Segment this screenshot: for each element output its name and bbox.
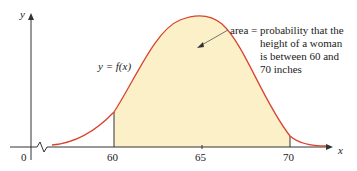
origin-label: 0	[21, 151, 27, 164]
annotation-line-2: height of a woman	[260, 37, 342, 50]
tick-label-70: 70	[283, 151, 294, 164]
curve-label: y = f(x)	[98, 60, 131, 73]
y-axis-label: y	[20, 8, 25, 21]
x-axis-arrow-icon	[326, 144, 333, 150]
y-axis-arrow-icon	[28, 13, 34, 20]
annotation-line-4: 70 inches	[260, 63, 302, 76]
tick-label-65: 65	[195, 151, 206, 164]
annotation-line-1: area = probability that the	[230, 24, 344, 37]
axis-break-icon	[37, 142, 47, 152]
x-axis-label: x	[338, 144, 343, 157]
tick-label-60: 60	[107, 151, 118, 164]
annotation-line-3: is between 60 and	[260, 50, 339, 63]
